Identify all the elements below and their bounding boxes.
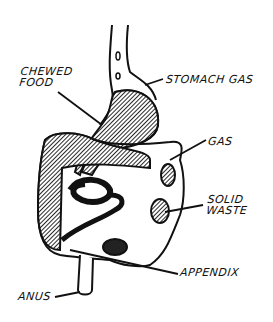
label-appendix: APPENDIX — [179, 267, 239, 278]
digestive-system-diagram: CHEWED FOOD STOMACH GAS GAS SOLID WASTE … — [0, 0, 273, 322]
solid-waste-upper — [161, 164, 175, 186]
label-gas: GAS — [207, 136, 233, 147]
label-chewed-food: CHEWED FOOD — [19, 66, 74, 88]
label-anus: ANUS — [17, 291, 51, 302]
appendix — [103, 239, 127, 255]
small-intestine — [62, 180, 122, 240]
label-stomach-gas: STOMACH GAS — [165, 74, 254, 85]
label-solid-waste: SOLID WASTE — [206, 194, 249, 216]
rectum — [78, 255, 93, 295]
